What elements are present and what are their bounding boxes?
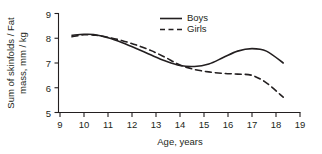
legend-label-girls: Girls — [187, 23, 207, 34]
y-axis-title-line1: Sum of skinfolds / Fat — [5, 17, 16, 109]
line-chart: Sum of skinfolds / Fat mass, mm / kg 9 8… — [0, 0, 322, 154]
y-axis-title: Sum of skinfolds / Fat mass, mm / kg — [5, 17, 28, 109]
x-tick-label-17: 17 — [247, 119, 258, 130]
legend: Boys Girls — [160, 12, 208, 34]
x-tick-label-18: 18 — [271, 119, 282, 130]
x-tick-label-13: 13 — [151, 119, 162, 130]
y-tick-label-5: 5 — [46, 108, 51, 119]
x-tick-label-16: 16 — [223, 119, 234, 130]
legend-label-boys: Boys — [187, 12, 208, 23]
series-line-girls — [72, 35, 283, 97]
x-tick-label-14: 14 — [175, 119, 186, 130]
x-tick-label-12: 12 — [127, 119, 138, 130]
y-axis: 9 8 7 6 5 — [46, 9, 59, 119]
data-series-group — [72, 34, 283, 97]
x-tick-label-19: 19 — [295, 119, 306, 130]
series-line-boys — [72, 34, 283, 66]
x-tick-label-10: 10 — [79, 119, 90, 130]
x-tick-label-11: 11 — [103, 119, 113, 130]
x-axis-title: Age, years — [157, 136, 203, 147]
x-axis: 9 10 11 12 13 14 15 16 17 18 19 Age, yea… — [57, 113, 305, 148]
y-tick-label-6: 6 — [46, 83, 51, 94]
y-axis-title-line2: mass, mm / kg — [17, 32, 28, 94]
y-tick-label-8: 8 — [46, 33, 51, 44]
y-tick-label-7: 7 — [46, 58, 51, 69]
y-tick-label-9: 9 — [46, 9, 51, 20]
x-tick-label-15: 15 — [199, 119, 210, 130]
x-tick-label-9: 9 — [57, 119, 62, 130]
figure-container: Sum of skinfolds / Fat mass, mm / kg 9 8… — [0, 0, 322, 154]
